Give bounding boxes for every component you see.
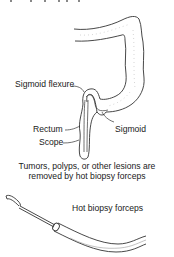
label-sigmoid-flexure: Sigmoid flexure <box>15 79 74 89</box>
label-scope: Scope <box>39 137 63 147</box>
caption-line-2: removed by hot biopsy forceps <box>0 171 174 181</box>
diagram-drawing <box>0 0 174 257</box>
caption-line-1: Tumors, polyps, or other lesions are <box>0 161 174 171</box>
colon-haustra-stipple <box>80 24 135 106</box>
label-sigmoid: Sigmoid <box>115 124 146 134</box>
label-hot-biopsy-forceps: Hot biopsy forceps <box>72 203 143 213</box>
colon-illustration <box>63 16 144 159</box>
label-rectum: Rectum <box>33 124 63 134</box>
top-cutoff-text-marks <box>10 0 80 2</box>
